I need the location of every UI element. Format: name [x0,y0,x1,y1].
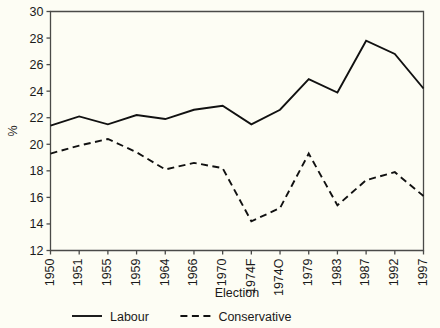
y-tick-label: 30 [30,5,44,19]
y-tick-label: 20 [30,138,44,152]
x-tick-label: 1966 [186,258,200,286]
y-tick-label: 16 [30,191,44,205]
line-chart: 1214161820222426283019501951195519591964… [0,0,440,328]
series-line-conservative [51,139,424,221]
x-tick-label: 1951 [71,258,85,286]
chart-container: 1214161820222426283019501951195519591964… [0,0,440,328]
series-line-labour [51,41,424,126]
legend-label-conservative: Conservative [218,310,291,324]
y-tick-label: 22 [30,111,44,125]
y-axis-title: % [6,125,20,136]
x-tick-label: 1987 [358,258,372,286]
legend-label-labour: Labour [110,310,149,324]
y-tick-label: 26 [30,58,44,72]
x-axis-title: Election [215,286,260,300]
y-tick-label: 24 [30,85,44,99]
x-tick-label: 1997 [416,258,430,286]
y-tick-label: 12 [30,244,44,258]
x-tick-label: 1964 [158,258,172,286]
x-tick-label: 1959 [129,258,143,286]
x-tick-label: 1955 [100,258,114,286]
x-tick-label: 1992 [387,258,401,286]
x-tick-label: 1950 [43,258,57,286]
plot-frame [51,12,424,251]
x-tick-label: 1979 [301,258,315,286]
x-tick-label: 1970 [215,258,229,286]
y-tick-label: 28 [30,32,44,46]
y-tick-label: 18 [30,164,44,178]
x-tick-label: 1974O [272,258,286,296]
y-tick-label: 14 [30,217,44,231]
x-tick-label: 1983 [330,258,344,286]
